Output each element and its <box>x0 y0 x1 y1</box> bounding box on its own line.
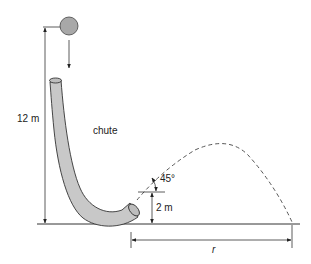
exit-height-label: 2 m <box>156 202 173 213</box>
exit-height-dimension: 2 m <box>152 193 173 223</box>
range-label: r <box>212 244 216 255</box>
range-dimension: r <box>131 225 292 255</box>
chute-diagram: 12 m chute 45° 2 m r <box>0 0 311 264</box>
chute-label: chute <box>93 125 118 136</box>
ball <box>60 17 78 35</box>
chute <box>50 78 142 226</box>
angle-marker: 45° <box>138 173 175 192</box>
height-label: 12 m <box>17 113 39 124</box>
angle-label: 45° <box>160 173 175 184</box>
